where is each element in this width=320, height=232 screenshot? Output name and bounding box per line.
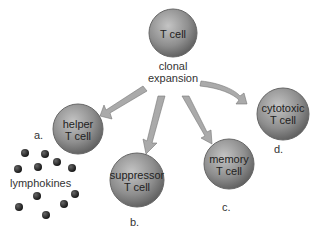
cytotoxic-line-2: T cell xyxy=(256,114,310,126)
arrow-to-memory xyxy=(182,96,212,144)
lymphokine-dot xyxy=(41,150,49,158)
lymphokine-dot xyxy=(15,203,23,211)
letter-b: b. xyxy=(130,216,139,228)
helper-line-1: helper xyxy=(53,118,103,130)
suppressor-line-2: T cell xyxy=(104,181,170,193)
lymphokine-dot xyxy=(14,165,22,173)
arrow-to-helper xyxy=(100,86,147,119)
lymphokine-dot xyxy=(33,192,41,200)
memory-line-1: memory xyxy=(204,153,254,165)
letter-d: d. xyxy=(274,143,283,155)
cytotoxic-line-1: cytotoxic xyxy=(256,102,310,114)
lymphokine-dot xyxy=(21,149,29,157)
lymphokine-dot xyxy=(68,164,76,172)
suppressor-line-1: suppressor xyxy=(104,169,170,181)
helper-line-2: T cell xyxy=(53,130,103,142)
lymphokine-dot xyxy=(71,190,79,198)
cytotoxic-t-cell-label: cytotoxic T cell xyxy=(256,102,310,126)
clonal-expansion-label: clonal expansion xyxy=(143,60,203,84)
arrow-to-suppressor xyxy=(143,96,165,154)
arrow-to-cytotoxic xyxy=(200,81,247,104)
suppressor-t-cell-label: suppressor T cell xyxy=(104,169,170,193)
lymphokine-dot xyxy=(60,200,68,208)
clonal-text: clonal xyxy=(143,60,203,72)
memory-t-cell-label: memory T cell xyxy=(204,153,254,177)
memory-line-2: T cell xyxy=(204,165,254,177)
letter-c: c. xyxy=(222,201,231,213)
letter-a: a. xyxy=(34,129,43,141)
lymphokine-dot xyxy=(53,158,61,166)
helper-t-cell-label: helper T cell xyxy=(53,118,103,142)
root-t-cell-label: T cell xyxy=(153,28,193,40)
lymphokine-dot xyxy=(34,163,42,171)
lymphokine-dot xyxy=(42,211,50,219)
expansion-text: expansion xyxy=(143,72,203,84)
lymphokines-label: lymphokines xyxy=(10,177,71,189)
